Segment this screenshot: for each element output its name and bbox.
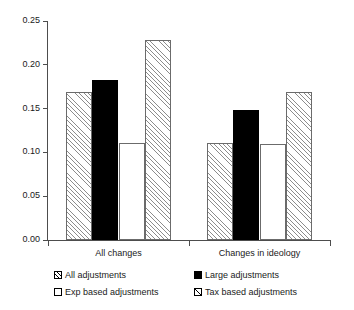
- bar-all-changes-exp-based-adjustments: [119, 143, 145, 240]
- x-tick-mark-2: [330, 241, 331, 246]
- bar-chart-figure: 0.00 0.05 0.10 0.15 0.20 0.25 All change…: [0, 0, 354, 310]
- x-category-label-0: All changes: [48, 248, 189, 258]
- y-tick-label-5: 0.25: [22, 16, 40, 25]
- legend-swatch-solid-icon: [194, 271, 202, 279]
- legend-entry-tax-based-adjustments: Tax based adjustments: [194, 287, 297, 297]
- bar-all-changes-large-adjustments: [92, 80, 118, 240]
- legend-row-1: All adjustments Large adjustments: [54, 266, 332, 283]
- legend-entry-all-adjustments: All adjustments: [54, 270, 194, 280]
- y-tick-label-3: 0.15: [22, 104, 40, 113]
- x-tick-mark-1: [189, 241, 190, 246]
- legend-entry-large-adjustments: Large adjustments: [194, 270, 279, 280]
- legend-row-2: Exp based adjustments Tax based adjustme…: [54, 283, 332, 300]
- legend-swatch-hatch-icon: [54, 271, 62, 279]
- bar-changes-in-ideology-exp-based-adjustments: [260, 144, 286, 240]
- y-tick-label-4: 0.20: [22, 60, 40, 69]
- legend-entry-exp-based-adjustments: Exp based adjustments: [54, 287, 194, 297]
- plot-area: [48, 21, 330, 240]
- bar-changes-in-ideology-large-adjustments: [233, 110, 259, 240]
- bar-changes-in-ideology-tax-based-adjustments: [286, 92, 312, 240]
- legend-swatch-hatch-single-icon: [194, 288, 202, 296]
- chart-legend: All adjustments Large adjustments Exp ba…: [54, 266, 332, 300]
- y-tick-label-2: 0.10: [22, 147, 40, 156]
- bar-all-changes-all-adjustments: [66, 92, 92, 240]
- legend-label-exp-based-adjustments: Exp based adjustments: [65, 287, 159, 297]
- bar-all-changes-tax-based-adjustments: [145, 40, 171, 240]
- x-category-label-1: Changes in ideology: [189, 248, 330, 258]
- legend-label-large-adjustments: Large adjustments: [205, 270, 279, 280]
- y-tick-label-0: 0.00: [22, 235, 40, 244]
- bar-changes-in-ideology-all-adjustments: [207, 143, 233, 240]
- legend-swatch-open-icon: [54, 288, 62, 296]
- x-tick-mark-0: [48, 241, 49, 246]
- legend-label-all-adjustments: All adjustments: [65, 270, 126, 280]
- y-tick-label-1: 0.05: [22, 191, 40, 200]
- legend-label-tax-based-adjustments: Tax based adjustments: [205, 287, 297, 297]
